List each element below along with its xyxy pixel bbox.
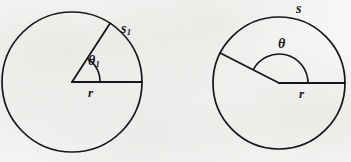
left-arc-length-subscript: 1 xyxy=(127,27,131,37)
circle-arc-figure: s1 θ1 r s θ r xyxy=(0,0,351,162)
diagram-canvas xyxy=(0,0,351,162)
right-radius-symbol: r xyxy=(299,86,304,101)
right-arc-length-label: s xyxy=(296,2,301,16)
right-angle-symbol: θ xyxy=(278,36,285,51)
left-radius-label: r xyxy=(88,86,93,99)
left-radius-symbol: r xyxy=(88,85,93,100)
right-radius-oblique xyxy=(220,53,279,83)
right-angle-label: θ xyxy=(278,37,285,51)
left-arc-length-symbol: s xyxy=(121,21,126,36)
right-angle-arc xyxy=(253,54,308,83)
right-radius-label: r xyxy=(299,87,304,100)
left-angle-subscript: 1 xyxy=(95,59,99,69)
left-arc-length-label: s1 xyxy=(121,22,131,37)
right-arc-length-symbol: s xyxy=(296,1,301,16)
left-angle-label: θ1 xyxy=(88,54,100,69)
